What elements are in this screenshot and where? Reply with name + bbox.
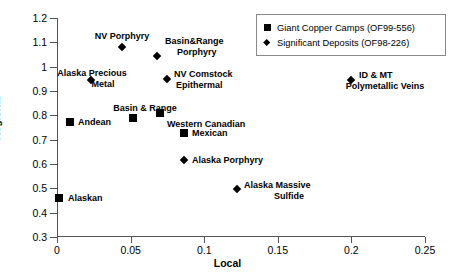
point-label-id-mt-line1: ID & MT <box>359 70 455 81</box>
y-tick-0.6 <box>50 164 57 165</box>
square-marker <box>55 194 62 201</box>
point-label-id-mt-line2: Polymetallic Veins <box>330 81 440 92</box>
y-tick-label-1.1: 1.1 <box>16 36 47 48</box>
y-tick-label-0.6: 0.6 <box>16 158 47 170</box>
point-label-alaska-massive-sulfide-line2: Sulfide <box>244 191 334 202</box>
y-tick-0.8 <box>50 115 57 116</box>
y-tick-label-0.8: 0.8 <box>16 109 47 121</box>
point-label-nv-comstock-line2: Epithermal <box>176 80 276 91</box>
y-tick-1.2 <box>50 18 57 19</box>
y-axis-title: Regional <box>0 96 2 140</box>
y-tick-label-0.3: 0.3 <box>16 231 47 243</box>
x-tick-label-0.15: 0.15 <box>258 244 298 256</box>
chart-legend: Giant Copper Camps (OF99-556) Significan… <box>256 14 446 56</box>
x-tick-label-0.2: 0.2 <box>331 244 371 256</box>
point-label-basin-range-porphyry-line1: Basin&Range <box>165 36 265 47</box>
y-tick-0.4 <box>50 213 57 214</box>
y-tick-label-1.2: 1.2 <box>16 12 47 24</box>
point-label-alaska-massive-sulfide-line1: Alaska Massive <box>244 180 354 191</box>
y-tick-0.7 <box>50 140 57 141</box>
square-marker <box>180 129 187 136</box>
y-tick-label-0.4: 0.4 <box>16 207 47 219</box>
legend-square-icon <box>264 24 277 31</box>
y-tick-0.3 <box>50 237 57 238</box>
x-tick-0.15 <box>278 237 279 243</box>
y-tick-0.9 <box>50 91 57 92</box>
point-label-alaska-precious-metal-line1: Alaska Precious <box>42 68 142 79</box>
x-tick-0 <box>57 237 58 243</box>
point-label-alaskan: Alaskan <box>68 193 148 204</box>
y-tick-label-0.5: 0.5 <box>16 182 47 194</box>
x-axis-title: Local <box>0 257 455 269</box>
y-tick-0.5 <box>50 188 57 189</box>
x-tick-0.05 <box>131 237 132 243</box>
point-label-nv-porphyry: NV Porphyry <box>72 31 172 42</box>
x-tick-0.1 <box>204 237 205 243</box>
y-tick-1.1 <box>50 42 57 43</box>
legend-diamond-icon <box>264 40 277 45</box>
x-tick-0.2 <box>351 237 352 243</box>
x-tick-label-0.25: 0.25 <box>405 244 445 256</box>
point-label-alaska-porphyry: Alaska Porphyry <box>192 155 292 166</box>
legend-item-giant-copper-camps[interactable]: Giant Copper Camps (OF99-556) <box>264 20 439 35</box>
scatter-chart: 1.2 1.1 1 0.9 0.8 0.7 0.6 0.5 0.4 0.3 0 … <box>0 0 455 275</box>
point-label-nv-comstock-line1: NV Comstock <box>174 69 274 80</box>
x-tick-label-0.05: 0.05 <box>111 244 151 256</box>
point-label-alaska-precious-metal-line2: Metal <box>53 79 153 90</box>
legend-label-giant-copper-camps: Giant Copper Camps (OF99-556) <box>277 23 439 33</box>
x-tick-label-0: 0 <box>37 244 77 256</box>
x-tick-0.25 <box>425 237 426 243</box>
x-tick-label-0.1: 0.1 <box>184 244 224 256</box>
point-label-andean: Andean <box>78 117 158 128</box>
square-marker <box>66 118 73 125</box>
y-tick-label-0.7: 0.7 <box>16 134 47 146</box>
legend-item-significant-deposits[interactable]: Significant Deposits (OF98-226) <box>264 35 439 50</box>
point-label-basin-and-range: Basin & Range <box>95 103 195 114</box>
y-tick-label-0.9: 0.9 <box>16 85 47 97</box>
legend-label-significant-deposits: Significant Deposits (OF98-226) <box>277 38 439 48</box>
point-label-mexican: Mexican <box>192 128 272 139</box>
